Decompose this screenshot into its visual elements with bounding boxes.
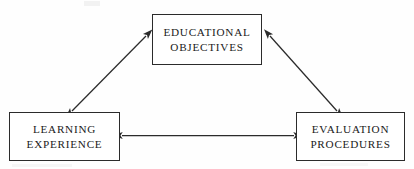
objectives-learning-connector xyxy=(72,36,146,111)
objectives-evaluation-connector xyxy=(270,36,337,111)
node-label-line-2: OBJECTIVES xyxy=(170,40,243,55)
node-label-line-1: EVALUATION xyxy=(312,122,390,137)
node-label-line-2: PROCEDURES xyxy=(310,137,390,152)
node-label-line-1: EDUCATIONAL xyxy=(163,25,250,40)
node-evaluation-procedures: EVALUATION PROCEDURES xyxy=(296,112,405,161)
node-label-line-1: LEARNING xyxy=(33,122,96,137)
node-label-line-2: EXPERIENCE xyxy=(27,137,103,152)
diagram-canvas: EDUCATIONAL OBJECTIVES LEARNING EXPERIEN… xyxy=(0,0,414,169)
node-educational-objectives: EDUCATIONAL OBJECTIVES xyxy=(152,14,262,65)
node-learning-experience: LEARNING EXPERIENCE xyxy=(9,112,120,161)
